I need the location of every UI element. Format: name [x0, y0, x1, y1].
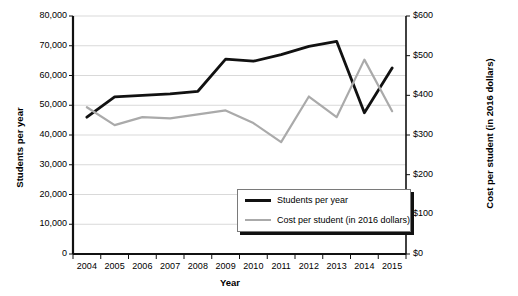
y-axis-right-tick-label: $300: [413, 129, 453, 139]
legend-label-cost: Cost per student (in 2016 dollars): [277, 215, 410, 225]
x-axis-tick-label: 2015: [372, 261, 412, 271]
y-axis-left-tick-label: 30,000: [19, 159, 67, 169]
legend-label-students: Students per year: [277, 195, 348, 205]
y-axis-right-tick-label: $0: [413, 248, 453, 258]
legend-item-students: Students per year: [238, 190, 410, 210]
chart-legend: Students per year Cost per student (in 2…: [237, 189, 411, 232]
y-axis-left-tick-label: 70,000: [19, 40, 67, 50]
legend-swatch-cost-line: [245, 219, 271, 221]
y-axis-left-tick-label: 60,000: [19, 70, 67, 80]
y-axis-right-tick-label: $500: [413, 50, 453, 60]
legend-swatch-students-line: [245, 199, 271, 202]
y-axis-right-tick-label: $100: [413, 208, 453, 218]
y-axis-right-tick-label: $200: [413, 169, 453, 179]
y-axis-left-tick-label: 10,000: [19, 218, 67, 228]
y-axis-left-tick-label: 80,000: [19, 10, 67, 20]
series-line-students: [87, 41, 392, 117]
series-line-cost: [87, 60, 392, 143]
y-axis-left-tick-label: 40,000: [19, 129, 67, 139]
y-axis-left-tick-label: 20,000: [19, 189, 67, 199]
y-axis-left-tick-label: 50,000: [19, 99, 67, 109]
y-axis-right-tick-label: $400: [413, 89, 453, 99]
y-axis-left-tick-label: 0: [19, 248, 67, 258]
chart-container: Students per year Cost per student (in 2…: [0, 0, 518, 296]
legend-item-cost: Cost per student (in 2016 dollars): [238, 210, 410, 230]
y-axis-right-tick-label: $600: [413, 10, 453, 20]
